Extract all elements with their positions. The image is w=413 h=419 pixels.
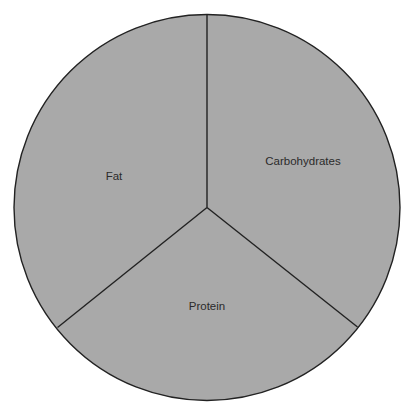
slice-label-fat: Fat — [106, 170, 123, 182]
pie-chart: Carbohydrates Protein Fat — [0, 0, 413, 419]
slice-label-carbohydrates: Carbohydrates — [265, 155, 341, 167]
slice-label-protein: Protein — [189, 300, 225, 312]
